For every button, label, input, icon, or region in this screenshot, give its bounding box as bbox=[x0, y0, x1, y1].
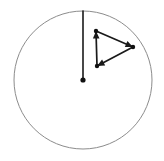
triangle-vertex-point bbox=[94, 29, 98, 33]
vector-diagram: Vector triangle inside circle bbox=[0, 0, 164, 161]
circle-center-point bbox=[80, 77, 85, 82]
figure-container: Vector triangle inside circle bbox=[0, 0, 164, 161]
triangle-vertex-point bbox=[95, 64, 99, 68]
triangle-vertex-point bbox=[131, 45, 135, 49]
